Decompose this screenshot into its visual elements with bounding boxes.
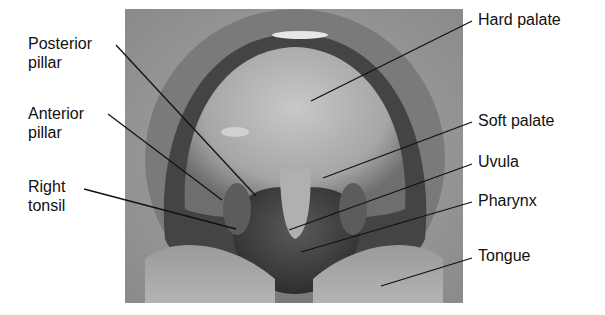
label-anterior-pillar: Anterior pillar — [28, 104, 84, 142]
label-hard-palate: Hard palate — [478, 10, 561, 29]
label-tongue: Tongue — [478, 246, 531, 265]
anatomy-figure: Posterior pillar Anterior pillar Right t… — [0, 0, 605, 315]
oral-cavity-illustration — [125, 9, 463, 303]
oral-cavity-photo — [125, 9, 463, 303]
label-right-tonsil: Right tonsil — [28, 177, 65, 215]
label-soft-palate: Soft palate — [478, 111, 555, 130]
label-posterior-pillar: Posterior pillar — [28, 34, 92, 72]
label-uvula: Uvula — [478, 152, 519, 171]
label-pharynx: Pharynx — [478, 191, 537, 210]
